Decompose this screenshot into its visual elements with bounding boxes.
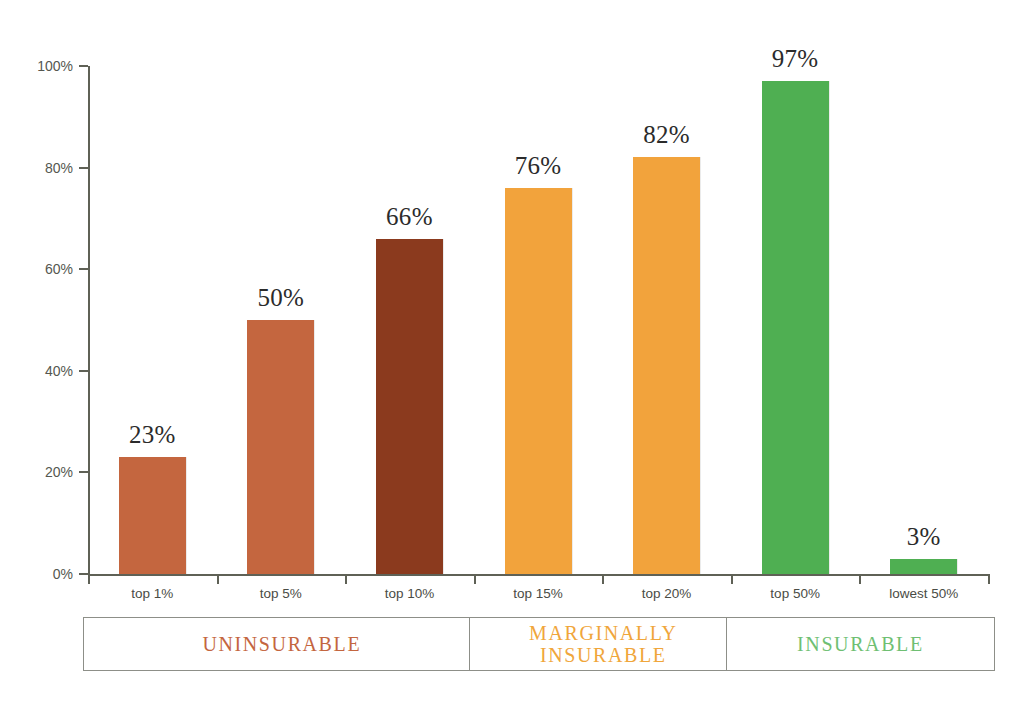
bar-value-label: 82%	[643, 121, 690, 149]
y-axis-tick-label: 60%	[45, 261, 73, 277]
bar	[890, 559, 957, 574]
y-axis-tick-mark: 0%	[79, 573, 88, 575]
x-axis-tick-mark	[88, 574, 90, 584]
plot-area: 0%20%40%60%80%100% 23%top 1%50%top 5%66%…	[88, 66, 988, 574]
bar-group: 97%top 50%	[762, 66, 829, 574]
bar-group: 76%top 15%	[505, 66, 572, 574]
bar-group: 3%lowest 50%	[890, 66, 957, 574]
bar-group: 23%top 1%	[119, 66, 186, 574]
x-axis-tick-mark	[602, 574, 604, 584]
bar	[505, 188, 572, 574]
x-axis-tick-mark	[474, 574, 476, 584]
x-axis-category-label: top 10%	[385, 586, 435, 601]
y-axis-tick-label: 80%	[45, 160, 73, 176]
x-axis-category-label: lowest 50%	[889, 586, 958, 601]
legend-item-label: INSURABLE	[797, 633, 924, 655]
x-axis-line	[88, 574, 988, 576]
x-axis-tick-mark	[345, 574, 347, 584]
legend-item: UNINSURABLE	[83, 617, 481, 671]
bar-value-label: 3%	[907, 523, 941, 551]
y-axis-tick-mark: 40%	[79, 370, 88, 372]
bar	[633, 157, 700, 574]
y-axis-tick-mark: 100%	[79, 65, 88, 67]
y-axis-tick-label: 100%	[37, 58, 73, 74]
legend-item-label: MARGINALLY INSURABLE	[529, 622, 677, 667]
bar	[119, 457, 186, 574]
x-axis-tick-mark	[217, 574, 219, 584]
y-axis-tick-mark: 60%	[79, 268, 88, 270]
bar	[376, 239, 443, 574]
bar-value-label: 97%	[772, 45, 819, 73]
y-axis-tick-label: 20%	[45, 464, 73, 480]
y-axis-tick-mark: 80%	[79, 167, 88, 169]
x-axis-category-label: top 15%	[513, 586, 563, 601]
y-axis-tick-label: 0%	[53, 566, 73, 582]
bars-layer: 23%top 1%50%top 5%66%top 10%76%top 15%82…	[88, 66, 988, 574]
bar-value-label: 66%	[386, 203, 433, 231]
bar-value-label: 50%	[257, 284, 304, 312]
x-axis-category-label: top 1%	[131, 586, 173, 601]
x-axis-category-label: top 5%	[260, 586, 302, 601]
legend-item-label: UNINSURABLE	[202, 633, 361, 655]
bar	[247, 320, 314, 574]
x-axis-tick-mark	[859, 574, 861, 584]
x-axis-category-label: top 20%	[642, 586, 692, 601]
legend: UNINSURABLEMARGINALLY INSURABLEINSURABLE	[0, 617, 1014, 687]
x-axis-category-label: top 50%	[770, 586, 820, 601]
bar-value-label: 23%	[129, 421, 176, 449]
x-axis-tick-mark	[988, 574, 990, 584]
bar-value-label: 76%	[515, 152, 562, 180]
bar-group: 82%top 20%	[633, 66, 700, 574]
bar-group: 66%top 10%	[376, 66, 443, 574]
x-axis-tick-mark	[731, 574, 733, 584]
y-axis-tick-mark: 20%	[79, 471, 88, 473]
legend-item: INSURABLE	[726, 617, 996, 671]
legend-item: MARGINALLY INSURABLE	[469, 617, 739, 671]
y-axis-tick-label: 40%	[45, 363, 73, 379]
bar-group: 50%top 5%	[247, 66, 314, 574]
bar-chart: 0%20%40%60%80%100% 23%top 1%50%top 5%66%…	[0, 0, 1014, 711]
bar	[762, 81, 829, 574]
